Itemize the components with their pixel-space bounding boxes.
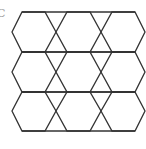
hexagon-r2-c2 (56, 52, 101, 92)
hexagon-r2-c1 (12, 52, 56, 92)
hexagon-grid (0, 0, 146, 149)
hexagon-r2-c3 (101, 52, 145, 92)
hexagon-r1-c1 (12, 12, 56, 52)
hexagon-r3-c1 (12, 92, 56, 131)
hexagon-r1-c3 (101, 12, 145, 52)
hexagon-r1-c2 (56, 12, 101, 52)
hexagon-r3-c3 (101, 92, 145, 131)
hexagon-r3-c2 (56, 92, 101, 131)
